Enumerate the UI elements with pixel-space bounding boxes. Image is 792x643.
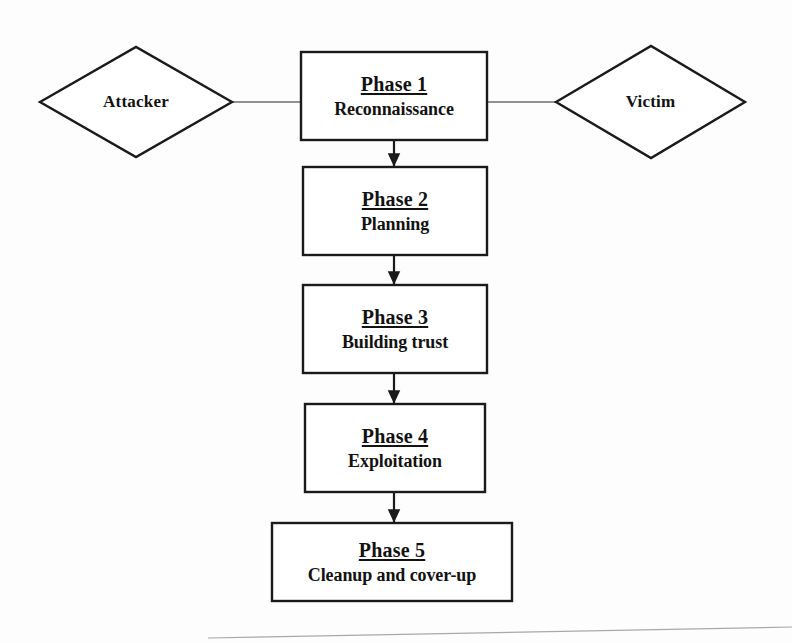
phase-3-box-shape[interactable] [303,285,487,373]
phase-5-box-shape[interactable] [272,523,512,601]
phase-2-box-shape[interactable] [303,167,487,255]
phase-1-box-shape[interactable] [301,52,487,140]
scan-edge-line [208,627,792,638]
diagram-canvas: Attacker Victim Phase 1 Reconnaissance P… [0,0,792,643]
attacker-diamond-shape[interactable] [40,47,232,157]
flowchart-graphics [0,0,792,643]
victim-diamond-shape[interactable] [556,46,745,158]
phase-4-box-shape[interactable] [305,404,485,492]
node-layer [40,46,745,601]
